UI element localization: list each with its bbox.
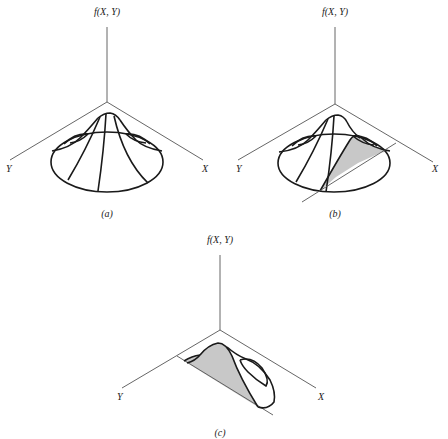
x-axis-label-c: X bbox=[317, 391, 325, 402]
x-axis-a bbox=[107, 102, 203, 160]
panel-a: f(X, Y) Y X (a) bbox=[6, 6, 209, 220]
y-axis-label-b: Y bbox=[236, 163, 243, 174]
x-axis-label-b: X bbox=[431, 163, 439, 174]
vertical-axis-label-a: f(X, Y) bbox=[94, 6, 121, 18]
x-axis-label-a: X bbox=[201, 163, 209, 174]
y-axis-label-a: Y bbox=[6, 163, 13, 174]
figure-canvas: f(X, Y) Y X (a) f(X, Y) Y X bbox=[0, 0, 448, 439]
panel-b: f(X, Y) Y X (b) bbox=[236, 6, 439, 220]
y-axis-label-c: Y bbox=[117, 391, 124, 402]
vertical-axis-label-c: f(X, Y) bbox=[207, 234, 234, 246]
caption-b: (b) bbox=[329, 208, 341, 220]
caption-c: (c) bbox=[214, 427, 226, 439]
y-axis-a bbox=[10, 102, 107, 160]
cross-section-shade-c bbox=[184, 343, 258, 407]
density-surface-a bbox=[51, 113, 163, 192]
panel-c: f(X, Y) Y X (c) bbox=[117, 234, 325, 439]
vertical-axis-label-b: f(X, Y) bbox=[322, 6, 349, 18]
caption-a: (a) bbox=[101, 208, 113, 220]
density-surface-b bbox=[278, 115, 396, 202]
